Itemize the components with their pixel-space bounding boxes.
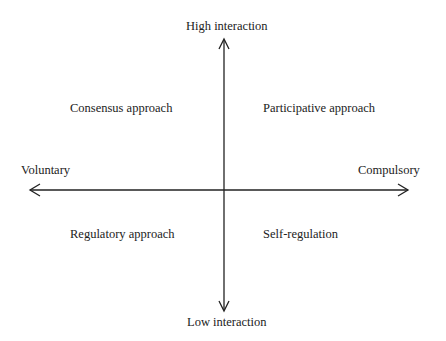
quadrant-regulatory-approach: Regulatory approach [70,228,174,241]
quadrant-participative-approach: Participative approach [263,102,375,115]
compulsory-label: Compulsory [358,164,420,177]
quadrant-consensus-approach: Consensus approach [70,102,172,115]
low-interaction-label: Low interaction [187,316,267,329]
quadrant-self-regulation: Self-regulation [263,228,338,241]
high-interaction-label: High interaction [186,20,268,33]
voluntary-label: Voluntary [21,164,70,177]
